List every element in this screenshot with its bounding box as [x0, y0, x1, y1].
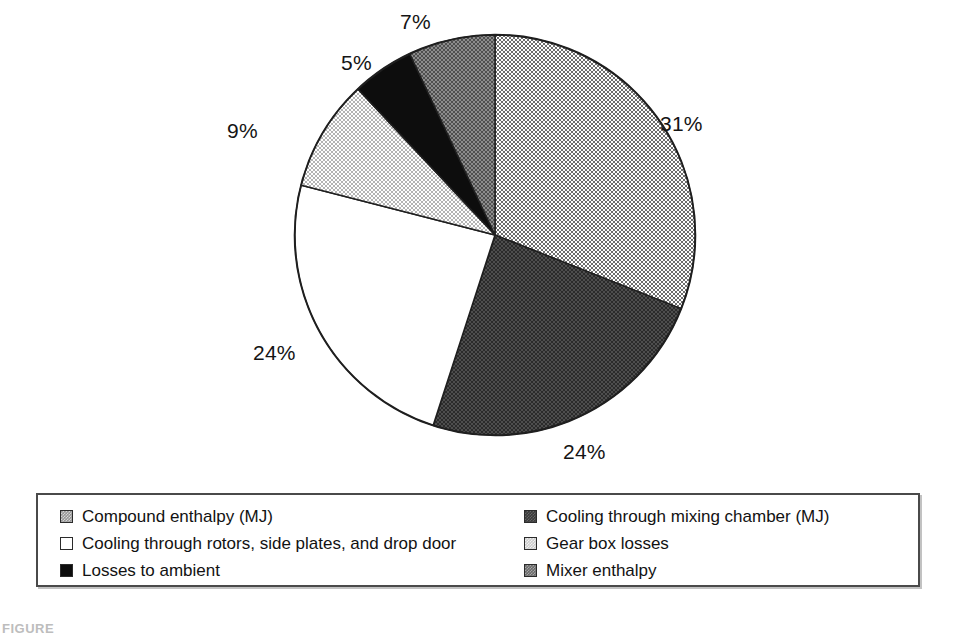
legend-swatch-icon — [60, 510, 73, 523]
chart-legend: Compound enthalpy (MJ) Cooling through r… — [36, 493, 920, 587]
pie-chart-svg — [293, 33, 697, 437]
legend-item-label: Mixer enthalpy — [546, 561, 657, 581]
legend-item[interactable]: Cooling through mixing chamber (MJ) — [524, 504, 914, 529]
legend-item-label: Gear box losses — [546, 534, 669, 554]
legend-item-label: Compound enthalpy (MJ) — [82, 507, 273, 527]
pie-label-losses-to-ambient: 5% — [341, 51, 372, 75]
pie-label-mixer-enthalpy: 7% — [400, 10, 431, 34]
legend-item-label: Cooling through rotors, side plates, and… — [82, 534, 456, 554]
pie-label-cooling-mixing-chamber: 24% — [563, 440, 606, 464]
pie-label-compound-enthalpy: 31% — [660, 112, 703, 136]
legend-swatch-icon — [524, 564, 537, 577]
legend-item-label: Losses to ambient — [82, 561, 220, 581]
legend-item[interactable]: Losses to ambient — [60, 558, 520, 583]
legend-item[interactable]: Compound enthalpy (MJ) — [60, 504, 520, 529]
legend-swatch-icon — [524, 510, 537, 523]
figure-caption: FIGURE — [2, 621, 54, 636]
pie-label-cooling-rotors: 24% — [253, 341, 296, 365]
legend-swatch-icon — [60, 564, 73, 577]
pie-label-gear-box-losses: 9% — [227, 119, 258, 143]
legend-column-left: Compound enthalpy (MJ) Cooling through r… — [60, 504, 520, 585]
legend-item[interactable]: Gear box losses — [524, 531, 914, 556]
legend-swatch-icon — [60, 537, 73, 550]
legend-item-label: Cooling through mixing chamber (MJ) — [546, 507, 829, 527]
legend-column-right: Cooling through mixing chamber (MJ) Gear… — [524, 504, 914, 585]
pie-chart — [293, 33, 697, 437]
pie-slices — [295, 35, 695, 435]
legend-swatch-icon — [524, 537, 537, 550]
legend-item[interactable]: Mixer enthalpy — [524, 558, 914, 583]
legend-item[interactable]: Cooling through rotors, side plates, and… — [60, 531, 520, 556]
